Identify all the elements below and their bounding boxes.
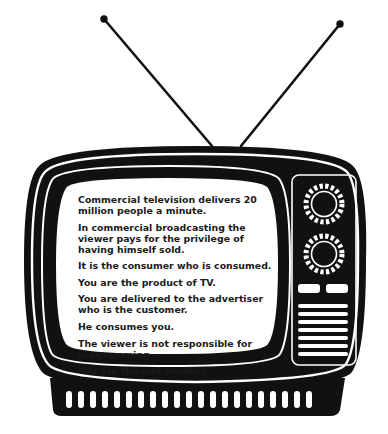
antenna-icon	[102, 17, 343, 146]
screen-line: You are delivered to the advertiser who …	[78, 293, 274, 315]
screen-text: Commercial television delivers 20 millio…	[78, 194, 274, 382]
screen-line: Commercial television delivers 20 millio…	[78, 194, 274, 216]
screen-line: You are the product of TV.	[78, 277, 274, 288]
screen-line: You are the end product.	[78, 365, 274, 376]
power-button	[298, 284, 320, 293]
screen-line: In commercial broadcasting the viewer pa…	[78, 222, 274, 255]
vent-slots	[66, 391, 312, 408]
screen-line: The viewer is not responsible for progra…	[78, 338, 274, 360]
screen-line: He consumes you.	[78, 321, 274, 332]
screen-line: It is the consumer who is consumed.	[78, 260, 274, 271]
mode-button	[326, 284, 348, 293]
